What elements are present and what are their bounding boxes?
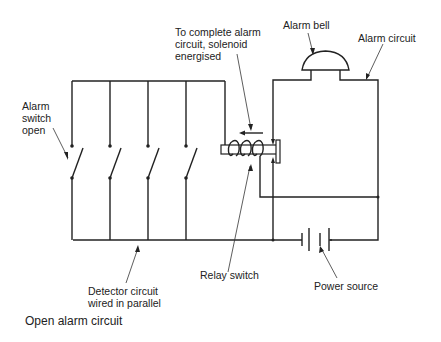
switch-label-line: switch [22, 112, 51, 124]
alarm-circuit-label: Alarm circuit [358, 32, 416, 44]
alarm-bell-icon [302, 51, 349, 70]
detector-label-line: Detector circuit [88, 285, 161, 297]
solenoid-annotation: To complete alarm circuit, solenoid ener… [175, 26, 261, 62]
detector-switch-2 [108, 81, 121, 240]
leader-solenoid [237, 54, 251, 129]
leader-relay [228, 166, 250, 272]
power-source-label: Power source [314, 280, 378, 292]
detector-annotation: Detector circuit wired in parallel [88, 285, 161, 309]
solenoid-label-line: To complete alarm [175, 26, 261, 38]
switch-label-line: open [22, 124, 51, 136]
detector-switch-4 [184, 81, 197, 240]
detector-switch-3 [146, 81, 159, 240]
relay-armature [276, 140, 280, 163]
leader-power [321, 248, 337, 278]
solenoid-label-line: energised [175, 50, 261, 62]
figure-caption: Open alarm circuit [25, 314, 122, 328]
leader-detector [126, 248, 138, 283]
left-arrow-icon [239, 131, 263, 136]
switch-label-line: Alarm [22, 100, 51, 112]
switch-annotation: Alarm switch open [22, 100, 51, 136]
detector-label-line: wired in parallel [88, 297, 161, 309]
alarm-circuit [271, 70, 378, 242]
alarm-bell-label: Alarm bell [283, 19, 330, 31]
detector-switch-1 [70, 81, 83, 240]
battery-icon [302, 228, 332, 251]
solenoid-label-line: circuit, solenoid [175, 38, 261, 50]
leader-alarm-circuit [367, 44, 383, 78]
relay-switch-label: Relay switch [200, 269, 259, 281]
